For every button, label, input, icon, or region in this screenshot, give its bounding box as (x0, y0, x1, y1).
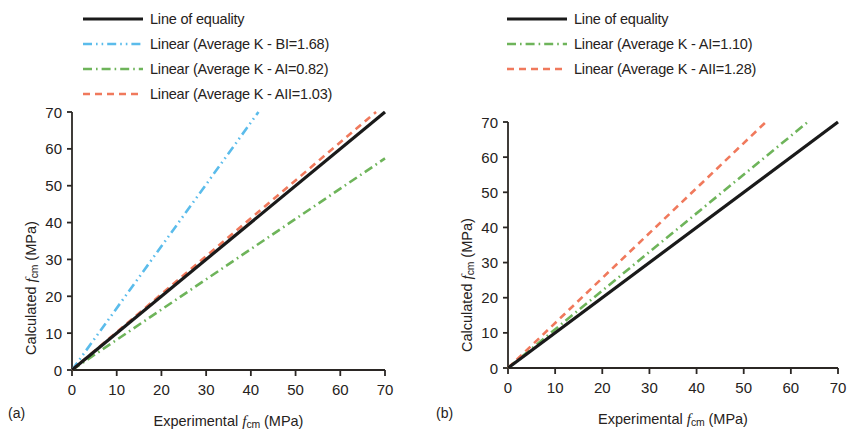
y-axis-tick-label: 30 (481, 254, 498, 271)
x-axis-tick-label: 0 (68, 381, 76, 398)
x-axis-tick-label: 30 (641, 379, 658, 396)
x-axis-tick-label: 40 (688, 379, 705, 396)
data-series-line (508, 122, 838, 368)
chart-panel-b: Line of equalityLinear (Average K - AI=1… (428, 0, 856, 434)
x-axis-tick-label: 70 (377, 381, 394, 398)
y-axis-tick-label: 40 (481, 219, 498, 236)
y-axis-tick-label: 70 (481, 114, 498, 131)
plot-area-b: 010203040506070010203040506070 Experimen… (428, 0, 856, 434)
x-axis-tick-label: 70 (830, 379, 847, 396)
x-axis-tick-label: 30 (198, 381, 215, 398)
plot-area-a: 010203040506070010203040506070 Experimen… (0, 0, 428, 434)
x-axis-tick-label: 40 (243, 381, 260, 398)
y-axis-tick-label: 10 (45, 325, 62, 342)
y-axis-tick-label: 50 (481, 184, 498, 201)
data-series-line (508, 122, 808, 368)
x-axis-tick-label: 50 (287, 381, 304, 398)
data-series-line (72, 158, 385, 370)
x-axis-tick-label: 10 (108, 381, 125, 398)
panel-label-b: (b) (436, 405, 453, 421)
y-axis-title-b: Calculated fcm (MPa) (458, 218, 476, 352)
y-axis-tick-label: 10 (481, 324, 498, 341)
y-axis-tick-label: 30 (45, 251, 62, 268)
x-axis-tick-label: 60 (783, 379, 800, 396)
y-axis-tick-label: 50 (45, 177, 62, 194)
y-axis-tick-label: 20 (481, 289, 498, 306)
chart-panel-a: Line of equalityLinear (Average K - BI=1… (0, 0, 428, 434)
x-axis-tick-label: 10 (547, 379, 564, 396)
y-axis-tick-label: 0 (54, 362, 62, 379)
y-axis-tick-label: 20 (45, 288, 62, 305)
y-axis-tick-label: 60 (45, 140, 62, 157)
x-axis-tick-label: 20 (153, 381, 170, 398)
plot-svg-b: 010203040506070010203040506070 (428, 0, 856, 434)
data-series-line (72, 112, 385, 370)
panel-label-a: (a) (8, 405, 25, 421)
plot-svg-a: 010203040506070010203040506070 (0, 0, 428, 434)
x-axis-tick-label: 50 (735, 379, 752, 396)
x-axis-title-a: Experimental fcm (MPa) (72, 412, 385, 430)
y-axis-tick-label: 60 (481, 149, 498, 166)
x-axis-tick-label: 20 (594, 379, 611, 396)
y-axis-tick-label: 0 (490, 360, 498, 377)
y-axis-tick-label: 40 (45, 214, 62, 231)
x-axis-title-b: Experimental fcm (MPa) (508, 410, 838, 428)
data-series-line (508, 122, 766, 368)
x-axis-tick-label: 60 (332, 381, 349, 398)
y-axis-title-a: Calculated fcm (MPa) (22, 221, 40, 355)
figure-container: Line of equalityLinear (Average K - BI=1… (0, 0, 856, 434)
x-axis-tick-label: 0 (504, 379, 512, 396)
y-axis-tick-label: 70 (45, 104, 62, 121)
